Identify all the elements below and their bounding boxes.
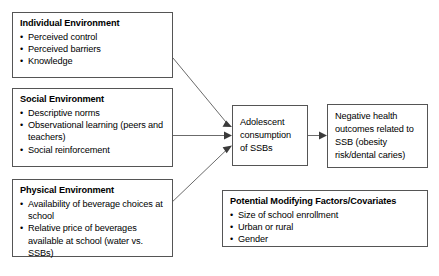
individual-to-consumption-arrowhead	[223, 121, 233, 127]
box-negative-health-outcomes: Negative health outcomes related to SSB …	[327, 104, 428, 168]
list-item: Perceived barriers	[20, 43, 166, 55]
box-individual-environment: Individual Environment Perceived control…	[12, 12, 173, 78]
box-social-environment-list: Descriptive norms Observational learning…	[20, 107, 166, 157]
box-physical-environment-list: Availability of beverage choices at scho…	[20, 198, 166, 260]
diagram-canvas: Individual Environment Perceived control…	[0, 0, 439, 276]
box-individual-environment-list: Perceived control Perceived barriers Kno…	[20, 31, 166, 68]
individual-to-consumption-line	[173, 58, 228, 125]
list-item: Gender	[230, 233, 421, 245]
physical-to-consumption-arrowhead	[223, 146, 232, 154]
list-item: Perceived control	[20, 31, 166, 43]
box-physical-environment-title: Physical Environment	[20, 184, 166, 197]
box-negative-health-outcomes-text: Negative health outcomes related to SSB …	[335, 110, 420, 163]
list-item: Social reinforcement	[20, 144, 166, 156]
box-modifying-factors-list: Size of school enrollment Urban or rural…	[230, 209, 421, 246]
box-adolescent-consumption-text: Adolescent consumption of SSBs	[240, 116, 300, 156]
social-to-consumption-arrowhead	[224, 132, 232, 140]
box-modifying-factors: Potential Modifying Factors/Covariates S…	[222, 190, 428, 247]
list-item: Descriptive norms	[20, 107, 166, 119]
box-individual-environment-title: Individual Environment	[20, 17, 166, 30]
physical-to-consumption-line	[169, 149, 228, 206]
box-physical-environment: Physical Environment Availability of bev…	[12, 179, 173, 257]
list-item: Availability of beverage choices at scho…	[20, 198, 166, 223]
box-modifying-factors-title: Potential Modifying Factors/Covariates	[230, 195, 421, 208]
consumption-to-outcomes-arrowhead	[319, 132, 327, 140]
box-social-environment: Social Environment Descriptive norms Obs…	[12, 88, 173, 167]
list-item: Observational learning (peers and teache…	[20, 119, 166, 144]
box-adolescent-consumption: Adolescent consumption of SSBs	[232, 105, 308, 166]
list-item: Size of school enrollment	[230, 209, 421, 221]
list-item: Urban or rural	[230, 221, 421, 233]
list-item: Relative price of beverages available at…	[20, 222, 166, 259]
box-social-environment-title: Social Environment	[20, 93, 166, 106]
list-item: Knowledge	[20, 55, 166, 67]
